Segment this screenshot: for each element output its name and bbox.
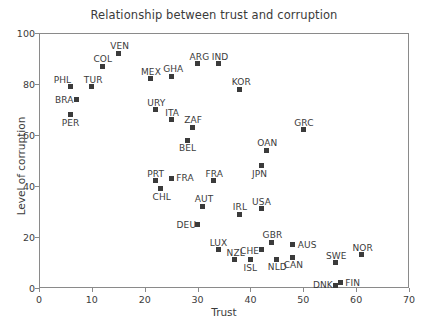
- data-point: [190, 125, 195, 130]
- data-point-label: VEN: [110, 41, 129, 51]
- data-point-label: LUX: [210, 238, 228, 248]
- data-point: [333, 260, 338, 265]
- x-tick-label: 70: [403, 294, 415, 305]
- data-point: [200, 204, 205, 209]
- data-point-label: BEL: [179, 143, 196, 153]
- y-tick-mark: [35, 186, 39, 187]
- x-tick-mark: [250, 288, 251, 292]
- data-point: [74, 97, 79, 102]
- data-point-label: PRT: [147, 169, 164, 179]
- x-axis-label: Trust: [39, 306, 409, 318]
- y-tick-label: 100: [0, 28, 35, 39]
- scatter-chart: Relationship between trust and corruptio…: [0, 0, 428, 324]
- data-point: [68, 84, 73, 89]
- data-point-label: IND: [212, 52, 229, 62]
- data-point-label: GRC: [294, 118, 313, 128]
- data-point: [169, 74, 174, 79]
- data-point: [116, 51, 121, 56]
- data-point: [333, 283, 338, 288]
- data-point: [169, 176, 174, 181]
- data-point-label: MEX: [141, 67, 161, 77]
- y-tick-mark: [35, 237, 39, 238]
- data-point: [248, 257, 253, 262]
- data-point: [290, 242, 295, 247]
- x-tick-mark: [409, 288, 410, 292]
- data-point: [195, 61, 200, 66]
- data-point-label: COL: [93, 54, 112, 64]
- data-point: [301, 127, 306, 132]
- data-point-label: AUT: [195, 194, 214, 204]
- data-point-label: ISL: [243, 263, 257, 273]
- x-tick-label: 50: [297, 294, 309, 305]
- data-point: [148, 76, 153, 81]
- data-point-label: TUR: [84, 75, 103, 85]
- data-point: [89, 84, 94, 89]
- data-point-label: PHL: [54, 75, 72, 85]
- data-point-label: FRA: [176, 173, 194, 183]
- data-point: [338, 280, 343, 285]
- data-point-label: URY: [147, 98, 165, 108]
- data-point-label: IRL: [233, 202, 247, 212]
- x-tick-label: 0: [36, 294, 42, 305]
- data-point-label: SWE: [326, 251, 347, 261]
- data-point: [264, 148, 269, 153]
- data-point: [68, 112, 73, 117]
- data-point: [237, 212, 242, 217]
- data-point-label: ZAF: [184, 115, 202, 125]
- data-point: [216, 247, 221, 252]
- x-tick-mark: [145, 288, 146, 292]
- data-point: [359, 252, 364, 257]
- data-point: [290, 255, 295, 260]
- data-point-label: DNK: [313, 280, 333, 290]
- data-point: [211, 178, 216, 183]
- data-point-label: USA: [252, 197, 271, 207]
- x-tick-label: 20: [139, 294, 151, 305]
- data-point-label: KOR: [232, 77, 251, 87]
- x-tick-mark: [39, 288, 40, 292]
- data-point-label: ITA: [165, 108, 179, 118]
- x-tick-mark: [198, 288, 199, 292]
- data-point-label: BRA: [55, 95, 74, 105]
- data-point-label: PER: [62, 118, 80, 128]
- data-point: [100, 64, 105, 69]
- data-point-label: NOR: [352, 243, 372, 253]
- data-point: [185, 138, 190, 143]
- x-tick-label: 40: [244, 294, 256, 305]
- x-tick-label: 10: [86, 294, 98, 305]
- y-tick-mark: [35, 135, 39, 136]
- data-point: [232, 257, 237, 262]
- y-tick-mark: [35, 288, 39, 289]
- y-tick-label: 0: [0, 283, 35, 294]
- data-point: [237, 87, 242, 92]
- data-point: [158, 186, 163, 191]
- data-point: [216, 61, 221, 66]
- x-tick-mark: [92, 288, 93, 292]
- y-tick-mark: [35, 84, 39, 85]
- data-point: [153, 107, 158, 112]
- data-point-label: FRA: [205, 169, 223, 179]
- data-point-label: OAN: [257, 138, 277, 148]
- data-point: [259, 247, 264, 252]
- x-tick-mark: [356, 288, 357, 292]
- data-point-label: ARG: [190, 52, 210, 62]
- data-point: [153, 178, 158, 183]
- data-point-label: AUS: [298, 240, 317, 250]
- data-point-label: CAN: [284, 260, 303, 270]
- data-point: [259, 163, 264, 168]
- data-point-label: FIN: [345, 278, 360, 288]
- data-point-label: JPN: [252, 169, 267, 179]
- data-point: [169, 117, 174, 122]
- y-axis-label: Level of corruption: [15, 86, 27, 246]
- data-point-label: CHE: [240, 246, 259, 256]
- chart-title: Relationship between trust and corruptio…: [0, 8, 428, 22]
- data-point-label: GBR: [263, 230, 283, 240]
- x-tick-label: 30: [192, 294, 204, 305]
- data-point: [269, 240, 274, 245]
- data-point-label: DEU: [177, 220, 197, 230]
- data-point-label: CHL: [153, 192, 171, 202]
- data-point-label: GHA: [163, 64, 183, 74]
- x-tick-mark: [303, 288, 304, 292]
- x-tick-label: 60: [350, 294, 362, 305]
- y-tick-mark: [35, 33, 39, 34]
- data-point: [259, 206, 264, 211]
